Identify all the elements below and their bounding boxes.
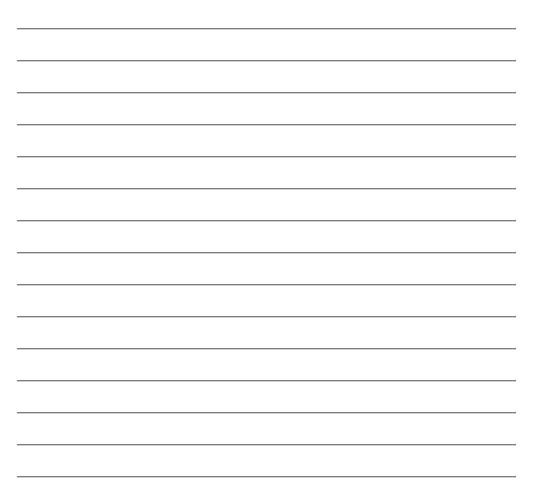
- ruled-line-8: [17, 252, 516, 253]
- ruled-line-3: [17, 92, 516, 93]
- ruled-line-11: [17, 348, 516, 349]
- ruled-line-13: [17, 412, 516, 413]
- ruled-line-6: [17, 188, 516, 189]
- ruled-line-9: [17, 284, 516, 285]
- ruled-line-12: [17, 380, 516, 381]
- ruled-line-1: [17, 28, 516, 29]
- ruled-line-4: [17, 124, 516, 125]
- ruled-line-5: [17, 156, 516, 157]
- ruled-line-2: [17, 60, 516, 61]
- ruled-line-15: [17, 476, 516, 477]
- ruled-line-14: [17, 444, 516, 445]
- ruled-line-7: [17, 220, 516, 221]
- ruled-line-10: [17, 316, 516, 317]
- ruled-sheet: [0, 0, 540, 494]
